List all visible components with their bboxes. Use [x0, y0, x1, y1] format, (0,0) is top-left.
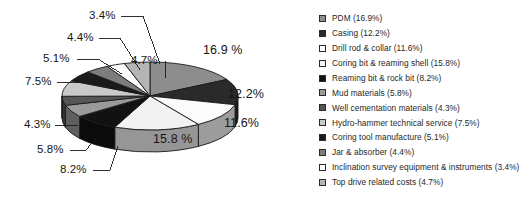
- legend-swatch-icon: [319, 30, 326, 37]
- slice-label-reaming: 8.2%: [60, 164, 87, 176]
- legend-item-label: Inclination survey equipment & instrumen…: [332, 163, 519, 171]
- legend-swatch-icon: [319, 89, 326, 96]
- legend-item-label: Mud materials (5.8%): [332, 89, 412, 97]
- legend-item[interactable]: Coring tool manufacture (5.1%): [319, 130, 510, 145]
- legend-item[interactable]: Well cementation materials (4.3%): [319, 100, 510, 115]
- slice-label-hydro: 7.5%: [25, 76, 52, 88]
- legend-item[interactable]: Coring bit & reaming shell (15.8%): [319, 56, 510, 71]
- legend-swatch-icon: [319, 149, 326, 156]
- legend-item[interactable]: Reaming bit & rock bit (8.2%): [319, 71, 510, 86]
- legend-item-label: Top drive related costs (4.7%): [332, 178, 443, 186]
- legend-item-label: Coring bit & reaming shell (15.8%): [332, 59, 460, 67]
- legend-item[interactable]: Inclination survey equipment & instrumen…: [319, 160, 510, 175]
- legend-swatch-icon: [319, 134, 326, 141]
- slice-label-pdm: 16.9 %: [203, 44, 243, 57]
- legend-swatch-icon: [319, 60, 326, 67]
- legend-item-label: Hydro-hammer technical service (7.5%): [332, 119, 480, 127]
- legend-swatch-icon: [319, 179, 326, 186]
- legend-item-label: Well cementation materials (4.3%): [332, 104, 460, 112]
- legend-swatch-icon: [319, 75, 326, 82]
- slice-label-top-drive: 4.7%: [131, 55, 158, 67]
- legend-swatch-icon: [319, 119, 326, 126]
- pie-geometry: [62, 62, 238, 152]
- pie-chart: 16.9 % 12.2% 11.6% 15.8 % 8.2% 5.8% 4.3%…: [0, 0, 300, 197]
- slice-label-cementation: 4.3%: [24, 119, 51, 131]
- legend-item-label: Reaming bit & rock bit (8.2%): [332, 74, 441, 82]
- slice-label-inclination: 3.4%: [89, 10, 116, 22]
- legend-item[interactable]: PDM (16.9%): [319, 11, 510, 26]
- slice-label-jar: 4.4%: [67, 32, 94, 44]
- legend-swatch-icon: [319, 164, 326, 171]
- legend-item[interactable]: Drill rod & collar (11.6%): [319, 41, 510, 56]
- chart-legend: PDM (16.9%)Casing (12.2%)Drill rod & col…: [319, 11, 510, 190]
- legend-item[interactable]: Top drive related costs (4.7%): [319, 175, 510, 190]
- slice-label-casing: 12.2%: [228, 88, 264, 101]
- legend-item-label: Casing (12.2%): [332, 29, 390, 37]
- legend-item-label: Coring tool manufacture (5.1%): [332, 133, 449, 141]
- legend-item-label: Jar & absorber (4.4%): [332, 148, 414, 156]
- leader-line: [93, 146, 118, 170]
- slice-label-coring-tool: 5.1%: [43, 53, 70, 65]
- legend-swatch-icon: [319, 104, 326, 111]
- slice-label-coring-bit: 15.8 %: [153, 133, 193, 146]
- legend-item[interactable]: Mud materials (5.8%): [319, 85, 510, 100]
- legend-item[interactable]: Jar & absorber (4.4%): [319, 145, 510, 160]
- legend-swatch-icon: [319, 45, 326, 52]
- legend-item-label: PDM (16.9%): [332, 14, 382, 22]
- slice-label-mud: 5.8%: [37, 144, 64, 156]
- legend-item[interactable]: Hydro-hammer technical service (7.5%): [319, 115, 510, 130]
- slice-label-drill-rod: 11.6%: [224, 117, 259, 130]
- legend-swatch-icon: [319, 15, 326, 22]
- legend-item[interactable]: Casing (12.2%): [319, 26, 510, 41]
- legend-item-label: Drill rod & collar (11.6%): [332, 44, 423, 52]
